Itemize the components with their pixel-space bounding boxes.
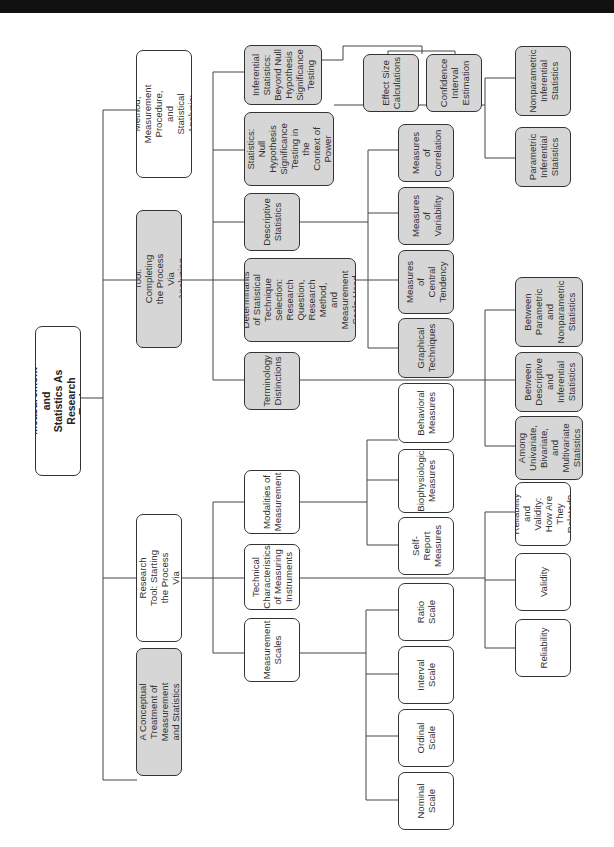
node-measurement-as-research-tool: Measurement As a Research Tool: Starting… <box>136 514 182 642</box>
node-label: Interval Scale <box>415 659 437 690</box>
node-self-report-measures: Self-Report Measures <box>398 517 454 575</box>
node-root: Measurement and Statistics As Research T… <box>35 326 81 476</box>
node-label: Terminology Distinctions <box>261 355 283 407</box>
node-validity: Validity <box>515 553 571 611</box>
node-label: Inferential Statistics: Beyond Null Hypo… <box>250 49 316 101</box>
node-inferential-nhst-power: Inferential Statistics: Null Hypothesis … <box>244 112 334 186</box>
node-research-question-progression: Research Question, Research Method, Meas… <box>136 50 192 178</box>
node-descriptive-statistics: Descriptive Statistics <box>244 193 300 251</box>
node-interval-scale: Interval Scale <box>398 646 454 704</box>
node-label: Inferential Statistics: Null Hypothesis … <box>244 123 334 175</box>
node-between-parametric-nonparametric: Between Parametric and Nonparametric Sta… <box>515 277 583 347</box>
node-label: Effect Size Calculations <box>380 57 402 109</box>
node-determinants-technique-selection: Determinants of Statistical Technique Se… <box>244 258 356 342</box>
node-reliability: Reliability <box>515 619 571 677</box>
node-label: Confidence Interval Estimation <box>438 59 471 108</box>
node-parametric-inferential: Parametric Inferential Statistics <box>515 127 571 187</box>
node-inferential-beyond-nhst: Inferential Statistics: Beyond Null Hypo… <box>244 45 322 105</box>
node-root-label: Measurement and Statistics As Research T… <box>35 367 81 435</box>
node-label: Technical Characteristics of Measuring I… <box>250 545 294 608</box>
node-statistics-as-research-tool: Statistics As a Research Tool: Completin… <box>136 210 182 348</box>
node-terminology-distinctions: Terminology Distinctions <box>244 352 300 410</box>
node-biophysiologic-measures: Biophysiologic Measures <box>398 449 454 513</box>
node-nominal-scale: Nominal Scale <box>398 772 454 830</box>
node-reliability-and-validity: Reliability and Validity: How Are They R… <box>515 482 571 546</box>
node-label: Measurement As a Research Tool: Starting… <box>136 549 182 608</box>
node-label: Ordinal Scale <box>415 723 437 754</box>
node-label: Research Question, Research Method, Meas… <box>136 85 192 144</box>
node-label: Behavioral Measures <box>415 390 437 435</box>
node-label: Measures of Correlation <box>410 130 443 177</box>
node-label: Determinants of Statistical Technique Se… <box>244 271 356 330</box>
node-measures-of-variability: Measures of Variability <box>398 187 454 245</box>
node-nonparametric-inferential: Nonparametric Inferential Statistics <box>515 46 571 116</box>
node-measures-of-correlation: Measures of Correlation <box>398 124 454 182</box>
node-label: Ratio Scale <box>415 600 437 624</box>
node-label: Among Univariate, Bivariate, and Multiva… <box>516 423 582 472</box>
node-label: Measurement Scales <box>261 621 283 680</box>
node-label: Statistics As a Research Tool: Completin… <box>136 250 182 309</box>
node-ordinal-scale: Ordinal Scale <box>398 709 454 767</box>
node-label: Validity <box>538 567 549 597</box>
node-label: Reliability and Validity: How Are They R… <box>515 493 571 534</box>
node-label: Measures of Variability <box>410 195 443 237</box>
node-measures-of-central-tendency: Measures of Central Tendency <box>398 250 454 314</box>
node-label: Measures of Central Tendency <box>404 261 448 303</box>
node-label: Biophysiologic Measures <box>415 450 437 511</box>
node-between-descriptive-inferential: Between Descriptive and Inferential Stat… <box>515 352 583 412</box>
node-label: Between Parametric and Nonparametric Sta… <box>522 281 577 344</box>
node-among-univariate-bivariate-multivariate: Among Univariate, Bivariate, and Multiva… <box>515 416 583 480</box>
node-confidence-interval: Confidence Interval Estimation <box>426 54 482 112</box>
node-label: Nonparametric Inferential Statistics <box>527 50 560 113</box>
node-label: Reliability <box>538 627 549 668</box>
node-label: Self-Report Measures <box>410 525 443 567</box>
node-label: Modalities of Measurement <box>261 473 283 532</box>
node-graphical-techniques: Graphical Techniques <box>398 318 454 378</box>
node-label: Graphical Techniques <box>415 324 437 373</box>
node-ratio-scale: Ratio Scale <box>398 583 454 641</box>
node-modalities-of-measurement: Modalities of Measurement <box>244 470 300 534</box>
node-behavioral-measures: Behavioral Measures <box>398 383 454 443</box>
node-conceptual-treatment: A Conceptual Treatment of Measurement an… <box>136 648 182 776</box>
node-measurement-scales: Measurement Scales <box>244 618 300 682</box>
node-label: Parametric Inferential Statistics <box>527 134 560 180</box>
node-label: Between Descriptive and Inferential Stat… <box>522 358 577 405</box>
node-technical-characteristics: Technical Characteristics of Measuring I… <box>244 544 300 610</box>
node-label: A Conceptual Treatment of Measurement an… <box>137 683 181 742</box>
node-label: Nominal Scale <box>415 783 437 818</box>
node-label: Descriptive Statistics <box>261 198 283 245</box>
node-effect-size-calculations: Effect Size Calculations <box>363 54 419 112</box>
